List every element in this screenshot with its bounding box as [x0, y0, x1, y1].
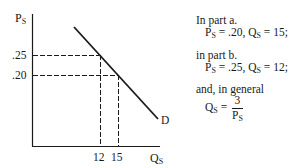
y-axis-label: PS [15, 12, 26, 26]
demand-curve [74, 27, 158, 119]
general-equation: QS = 3PS [205, 95, 243, 123]
curve-label-d: D [161, 115, 169, 127]
part-a-equation: PS = .20, QS = 15; [205, 27, 288, 40]
x-axis-label: QS [150, 152, 163, 166]
general-heading: and, in general [196, 84, 264, 96]
part-a-heading: In part a. [196, 15, 237, 27]
part-b-heading: in part b. [196, 50, 237, 62]
y-tick-020: .20 [12, 70, 26, 82]
part-b-equation: PS = .25, QS = 12; [205, 62, 288, 75]
x-tick-15: 15 [111, 152, 123, 164]
x-tick-12: 12 [93, 152, 105, 164]
fraction: 3PS [232, 95, 243, 123]
y-tick-025: .25 [12, 50, 26, 62]
